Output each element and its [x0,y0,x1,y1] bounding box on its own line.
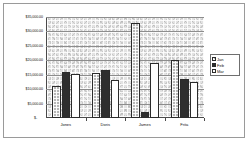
legend-label: Jan [217,57,223,62]
y-axis-tick-label: $30,000.00 [26,29,44,33]
y-axis-tick-label: $20,000.00 [26,58,44,62]
x-axis-tick-mark [165,118,166,121]
bar-jan-james [131,23,140,118]
bar-chart: $35,000.00$30,000.00$25,000.00$20,000.00… [4,4,246,139]
bar-feb-james [141,112,150,118]
bar-feb-frita [180,79,189,118]
legend-swatch-mar-icon [212,69,216,73]
y-axis-tick-label: $35,000.00 [26,15,44,19]
legend-label: Mar [217,69,224,74]
legend-item-mar[interactable]: Mar [212,68,238,74]
gridline [46,17,204,18]
bar-mar-james [150,63,159,118]
gridline [46,46,204,47]
gridline [46,31,204,32]
x-axis-tick-label: James [139,122,151,127]
chart-legend: JanFebMar [210,54,240,76]
bar-mar-frita [190,82,199,118]
x-axis-tick-mark [125,118,126,121]
x-axis-tick-label: Doris [101,122,110,127]
legend-swatch-jan-icon [212,57,216,61]
y-axis-tick-label: $10,000.00 [26,87,44,91]
bar-feb-jones [62,72,71,118]
legend-label: Feb [217,63,224,68]
bar-mar-jones [71,74,80,118]
legend-swatch-feb-icon [212,63,216,67]
y-axis-tick-label: $25,000.00 [26,44,44,48]
x-axis-tick-mark [86,118,87,121]
gridline [46,60,204,61]
x-axis-tick-label: Frita [180,122,188,127]
chart-frame: $35,000.00$30,000.00$25,000.00$20,000.00… [3,3,245,138]
y-axis-tick-label: $5,000.00 [27,102,43,106]
bar-jan-jones [52,86,61,118]
bar-mar-doris [111,80,120,118]
x-axis-tick-mark [204,118,205,121]
bar-jan-doris [92,73,101,118]
x-axis-tick-label: Jones [60,122,71,127]
bar-feb-doris [101,70,110,118]
y-axis-zero-label: $- [34,116,37,120]
y-axis-tick-label: $15,000.00 [26,73,44,77]
bar-jan-frita [171,60,180,118]
